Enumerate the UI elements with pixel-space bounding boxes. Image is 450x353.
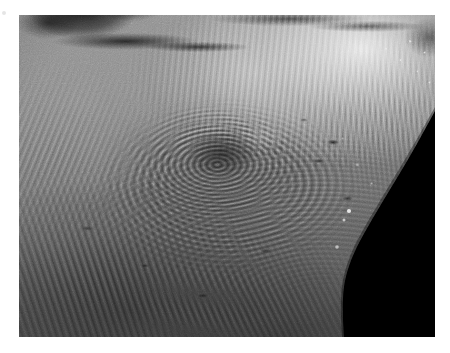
dark-pits-layer (19, 15, 435, 337)
grooved-terrain-bottom-layer (19, 15, 435, 337)
edge-speck-artifact (2, 11, 6, 15)
grooved-terrain-mid-left-layer (19, 15, 435, 337)
grooved-terrain-right-layer (19, 15, 435, 337)
basin-interior-shading-layer (19, 15, 435, 337)
photo-vignette-layer (19, 15, 435, 337)
dark-trough-upper-left-layer (19, 15, 435, 337)
space-limb-layer (19, 15, 435, 337)
screenshot-canvas: Grayscale spacecraft image of a heavily … (0, 0, 450, 353)
concentric-basin-outer-rings-layer (19, 15, 435, 337)
grooved-terrain-upper-layer (19, 15, 435, 337)
knobby-bright-terrain-layer (19, 15, 435, 337)
surface-base-albedo-layer (19, 15, 435, 337)
dark-seam-upper-right-layer (19, 15, 435, 337)
streaked-terrain-lower-left-layer (19, 15, 435, 337)
concentric-basin-inner-rings-layer (19, 15, 435, 337)
image-grain-layer (19, 15, 435, 337)
planetary-surface-photo: Grayscale spacecraft image of a heavily … (19, 15, 435, 337)
arcuate-ridge-set-layer (19, 15, 435, 337)
